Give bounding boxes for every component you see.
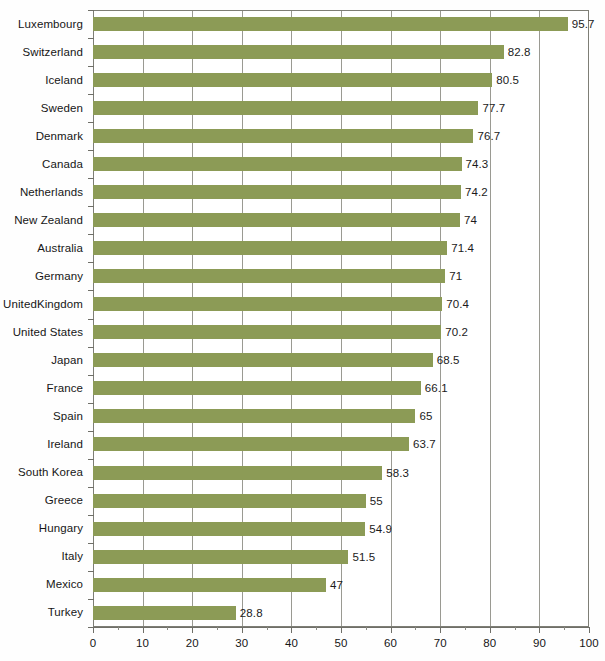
- bar-value-label: 68.5: [433, 354, 460, 366]
- bar-mexico: [93, 578, 326, 592]
- bar-value-label: 74: [460, 214, 477, 226]
- y-axis-label-italy: Italy: [0, 543, 88, 571]
- bar-value-label: 55: [366, 495, 383, 507]
- x-axis-tick-10: [143, 627, 144, 633]
- bar-united-kingdom: [93, 297, 442, 311]
- x-axis-label-10: 10: [136, 637, 149, 649]
- x-axis-minor-tick: [118, 627, 119, 630]
- bar-value-label: 51.5: [348, 551, 375, 563]
- bar-row: 63.7: [93, 430, 589, 458]
- y-axis-label-sweden: Sweden: [0, 94, 88, 122]
- bar-switzerland: [93, 45, 504, 59]
- bar-netherlands: [93, 185, 461, 199]
- y-axis-tick: [88, 262, 94, 263]
- y-axis-tick: [88, 347, 94, 348]
- bar-value-label: 58.3: [382, 467, 409, 479]
- bar-germany: [93, 269, 445, 283]
- y-axis-tick: [88, 599, 94, 600]
- x-axis-minor-tick: [415, 627, 416, 630]
- x-axis-minor-tick: [366, 627, 367, 630]
- x-axis-label-20: 20: [186, 637, 199, 649]
- bar-japan: [93, 353, 433, 367]
- bar-value-label: 54.9: [365, 523, 392, 535]
- bar-sweden: [93, 101, 478, 115]
- x-axis-label-30: 30: [235, 637, 248, 649]
- y-axis-tick: [88, 122, 94, 123]
- y-axis-category-labels: LuxembourgSwitzerlandIcelandSwedenDenmar…: [0, 10, 88, 627]
- y-axis-tick: [88, 459, 94, 460]
- y-axis-label-denmark: Denmark: [0, 122, 88, 150]
- y-axis-label-japan: Japan: [0, 346, 88, 374]
- x-axis-minor-tick: [167, 627, 168, 630]
- x-axis-label-50: 50: [335, 637, 348, 649]
- x-axis-tick-30: [242, 627, 243, 633]
- bar-row: 51.5: [93, 543, 589, 571]
- x-axis-label-0: 0: [90, 637, 97, 649]
- bar-value-label: 70.2: [441, 326, 468, 338]
- bar-chart: LuxembourgSwitzerlandIcelandSwedenDenmar…: [0, 0, 605, 661]
- bar-row: 80.5: [93, 66, 589, 94]
- y-axis-tick: [88, 431, 94, 432]
- bar-row: 95.7: [93, 10, 589, 38]
- y-axis-tick: [88, 290, 94, 291]
- y-axis-tick: [88, 375, 94, 376]
- y-axis-label-south-korea: South Korea: [0, 459, 88, 487]
- bar-row: 74: [93, 206, 589, 234]
- x-axis-label-100: 100: [579, 637, 599, 649]
- x-axis-tick-60: [391, 627, 392, 633]
- bar-value-label: 76.7: [473, 130, 500, 142]
- bar-value-label: 47: [326, 579, 343, 591]
- y-axis-label-ireland: Ireland: [0, 430, 88, 458]
- bar-value-label: 63.7: [409, 438, 436, 450]
- y-axis-tick: [88, 94, 94, 95]
- x-axis-minor-tick: [316, 627, 317, 630]
- bar-value-label: 71: [445, 270, 462, 282]
- bar-canada: [93, 157, 462, 171]
- bar-row: 82.8: [93, 38, 589, 66]
- bar-ireland: [93, 437, 409, 451]
- bar-value-label: 74.3: [462, 158, 489, 170]
- bar-value-label: 80.5: [492, 74, 519, 86]
- y-axis-tick: [88, 543, 94, 544]
- x-axis-label-90: 90: [533, 637, 546, 649]
- y-axis-tick: [88, 515, 94, 516]
- x-axis-label-40: 40: [285, 637, 298, 649]
- y-axis-label-switzerland: Switzerland: [0, 38, 88, 66]
- bar-value-label: 28.8: [236, 607, 263, 619]
- bar-row: 58.3: [93, 459, 589, 487]
- bar-row: 74.3: [93, 150, 589, 178]
- bar-new-zealand: [93, 213, 460, 227]
- y-axis-tick: [88, 487, 94, 488]
- y-axis-tick: [88, 319, 94, 320]
- x-axis-tick-20: [192, 627, 193, 633]
- bar-row: 66.1: [93, 374, 589, 402]
- y-axis-label-netherlands: Netherlands: [0, 178, 88, 206]
- x-axis-tick-40: [291, 627, 292, 633]
- x-axis-tick-100: [589, 627, 590, 633]
- x-axis-minor-tick: [564, 627, 565, 630]
- y-axis-tick: [88, 206, 94, 207]
- bar-value-label: 77.7: [478, 102, 505, 114]
- bar-row: 76.7: [93, 122, 589, 150]
- y-axis-tick: [88, 403, 94, 404]
- bar-hungary: [93, 522, 365, 536]
- y-axis-tick: [88, 150, 94, 151]
- x-axis-minor-tick: [515, 627, 516, 630]
- bar-rows: 95.782.880.577.776.774.374.27471.47170.4…: [93, 10, 589, 627]
- bar-australia: [93, 241, 447, 255]
- bar-spain: [93, 409, 415, 423]
- y-axis-tick: [88, 38, 94, 39]
- y-axis-label-germany: Germany: [0, 262, 88, 290]
- bar-row: 65: [93, 402, 589, 430]
- y-axis-label-mexico: Mexico: [0, 571, 88, 599]
- x-axis-minor-tick: [217, 627, 218, 630]
- x-axis-minor-tick: [267, 627, 268, 630]
- y-axis-tick: [88, 66, 94, 67]
- y-axis-tick: [88, 178, 94, 179]
- bar-united-states: [93, 325, 441, 339]
- bar-value-label: 70.4: [442, 298, 469, 310]
- x-axis-minor-tick: [465, 627, 466, 630]
- y-axis-label-turkey: Turkey: [0, 599, 88, 627]
- bar-value-label: 66.1: [421, 382, 448, 394]
- y-axis-label-iceland: Iceland: [0, 66, 88, 94]
